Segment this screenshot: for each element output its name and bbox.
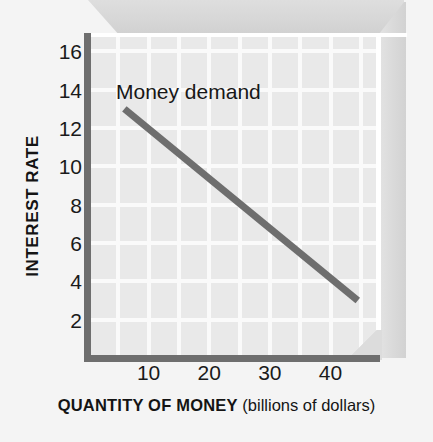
y-tick-labels: 246810121416 xyxy=(40,0,82,442)
x-tick-label: 10 xyxy=(119,362,179,383)
gridline-horizontal xyxy=(88,164,379,168)
gridline-vertical xyxy=(268,36,272,358)
y-tick-label: 10 xyxy=(46,156,82,177)
x-tick-label: 20 xyxy=(179,362,239,383)
gridline-vertical xyxy=(329,36,333,358)
series-annotation-money-demand: Money demand xyxy=(116,80,261,104)
y-axis-title: INTEREST RATE xyxy=(23,101,43,311)
x-axis-line xyxy=(84,355,380,362)
x-tick-label: 40 xyxy=(301,362,361,383)
slab-top-face xyxy=(88,0,404,36)
slab-right-face xyxy=(379,2,406,358)
gridline-vertical-minor xyxy=(298,36,302,358)
gridline-horizontal xyxy=(88,203,379,207)
money-demand-chart: 246810121416 10203040 INTEREST RATE QUAN… xyxy=(0,0,433,442)
x-axis-title-main: QUANTITY OF MONEY xyxy=(58,396,238,414)
y-tick-label: 4 xyxy=(46,271,82,292)
y-axis-line xyxy=(84,33,91,361)
gridline-horizontal xyxy=(88,49,379,53)
x-axis-title: QUANTITY OF MONEY (billions of dollars) xyxy=(0,396,433,415)
y-tick-label: 8 xyxy=(46,195,82,216)
slab-right-highlight xyxy=(376,33,381,358)
gridline-horizontal xyxy=(88,126,379,130)
y-tick-label: 6 xyxy=(46,233,82,254)
gridline-vertical-minor xyxy=(359,36,363,358)
x-tick-label: 30 xyxy=(240,362,300,383)
gridline-horizontal xyxy=(88,279,379,283)
y-tick-label: 16 xyxy=(46,41,82,62)
gridline-horizontal xyxy=(88,241,379,245)
y-tick-label: 14 xyxy=(46,80,82,101)
slab-top-highlight xyxy=(88,33,407,37)
gridline-horizontal xyxy=(88,318,379,322)
x-axis-title-sub: (billions of dollars) xyxy=(242,396,375,414)
y-tick-label: 12 xyxy=(46,118,82,139)
y-tick-label: 2 xyxy=(46,310,82,331)
